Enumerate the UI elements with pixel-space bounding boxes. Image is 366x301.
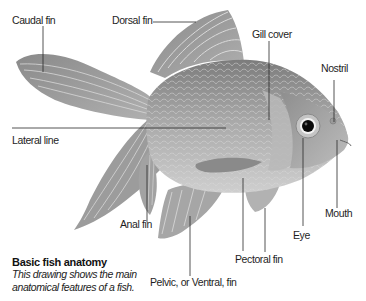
- label-pectoral-fin: Pectoral fin: [235, 253, 283, 265]
- caption-line-1: This drawing shows the main: [12, 268, 162, 281]
- diagram-caption: Basic fish anatomy This drawing shows th…: [12, 256, 162, 293]
- caption-title: Basic fish anatomy: [12, 256, 162, 268]
- label-eye: Eye: [293, 229, 310, 241]
- label-caudal-fin: Caudal fin: [12, 14, 55, 26]
- label-anal-fin: Anal fin: [120, 218, 152, 230]
- label-pelvic-fin: Pelvic, or Ventral, fin: [150, 276, 237, 288]
- fish-anatomy-diagram: Caudal fin Dorsal fin Gill cover Nostril…: [0, 0, 366, 301]
- label-gill-cover: Gill cover: [252, 28, 292, 40]
- label-lateral-line: Lateral line: [12, 134, 59, 146]
- pelvic-fin-shape: [158, 184, 224, 239]
- label-mouth: Mouth: [325, 207, 352, 219]
- label-nostril: Nostril: [321, 62, 348, 74]
- caption-line-2: anatomical features of a fish.: [12, 281, 162, 294]
- eye-shape: [296, 114, 320, 138]
- label-dorsal-fin: Dorsal fin: [112, 14, 152, 26]
